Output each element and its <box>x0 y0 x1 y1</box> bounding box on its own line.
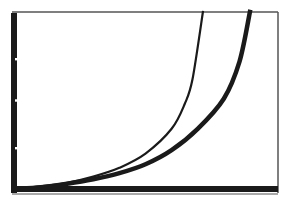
y-tick-lower <box>15 147 18 149</box>
graph-screen <box>0 0 293 206</box>
y-axis <box>11 13 17 193</box>
x-axis <box>11 186 278 192</box>
y-tick-upper <box>15 58 18 60</box>
series-curve-thin <box>15 12 203 189</box>
y-tick-1 <box>15 99 18 101</box>
